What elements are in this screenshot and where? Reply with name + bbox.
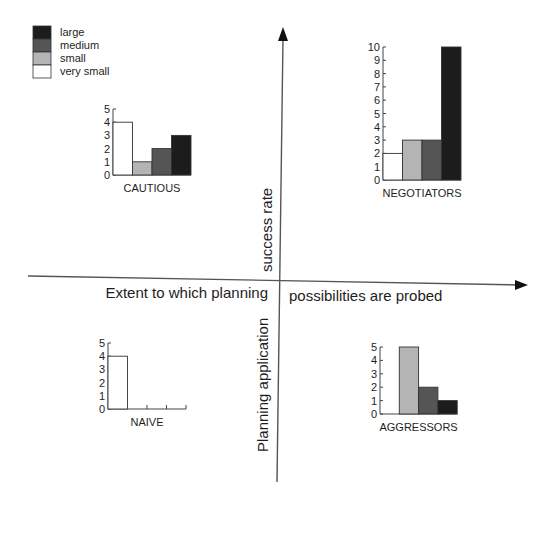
bar-medium bbox=[422, 140, 442, 180]
chart-caption: CAUTIOUS bbox=[124, 182, 181, 194]
y-tick-label: 3 bbox=[99, 363, 105, 375]
bar-very-small bbox=[108, 356, 128, 409]
y-tick-label: 4 bbox=[104, 116, 110, 128]
x-axis-label-left: Extent to which planning bbox=[105, 284, 268, 301]
y-axis-label-top: success rate bbox=[258, 188, 275, 272]
legend-swatch-very-small bbox=[33, 65, 51, 78]
bar-small bbox=[133, 162, 153, 175]
bar-medium bbox=[419, 387, 438, 414]
y-tick-label: 4 bbox=[99, 350, 105, 362]
y-axis-line bbox=[277, 38, 283, 482]
y-tick-label: 1 bbox=[99, 390, 105, 402]
x-axis-line bbox=[28, 276, 520, 285]
chart-aggressors: 012345AGGRESSORS bbox=[371, 341, 458, 433]
bar-small bbox=[403, 140, 423, 180]
y-tick-label: 1 bbox=[374, 161, 380, 173]
y-tick-label: 8 bbox=[374, 68, 380, 80]
y-tick-label: 0 bbox=[104, 169, 110, 181]
y-tick-label: 2 bbox=[99, 377, 105, 389]
y-tick-label: 1 bbox=[371, 395, 377, 407]
bar-medium bbox=[152, 149, 172, 175]
y-tick-label: 2 bbox=[374, 147, 380, 159]
y-tick-label: 0 bbox=[99, 403, 105, 415]
legend-label-very-small: very small bbox=[60, 65, 110, 77]
chart-naive: 012345NAIVE bbox=[99, 337, 186, 428]
y-tick-label: 5 bbox=[104, 103, 110, 115]
legend-label-small: small bbox=[60, 52, 86, 64]
y-tick-label: 0 bbox=[374, 174, 380, 186]
bar-large bbox=[438, 401, 457, 414]
y-tick-label: 0 bbox=[371, 408, 377, 420]
y-tick-label: 6 bbox=[374, 94, 380, 106]
chart-negotiators: 012345678910NEGOTIATORS bbox=[368, 41, 462, 199]
y-tick-label: 5 bbox=[371, 341, 377, 353]
y-tick-label: 4 bbox=[374, 121, 380, 133]
chart-caption: NEGOTIATORS bbox=[382, 187, 461, 199]
legend-label-medium: medium bbox=[60, 39, 99, 51]
y-tick-label: 5 bbox=[374, 108, 380, 120]
y-tick-label: 4 bbox=[371, 354, 377, 366]
legend: large medium small very small bbox=[33, 26, 110, 78]
legend-label-large: large bbox=[60, 26, 84, 38]
bar-very-small bbox=[383, 153, 403, 180]
bar-small bbox=[399, 347, 418, 414]
legend-swatch-small bbox=[33, 52, 51, 65]
y-tick-label: 5 bbox=[99, 337, 105, 349]
legend-swatch-large bbox=[33, 26, 51, 39]
chart-caption: AGGRESSORS bbox=[379, 421, 457, 433]
x-axis-arrow-icon bbox=[515, 280, 528, 290]
bar-very-small bbox=[113, 122, 133, 175]
chart-caption: NAIVE bbox=[130, 416, 163, 428]
y-axis-arrow-icon bbox=[278, 27, 288, 41]
y-tick-label: 7 bbox=[374, 81, 380, 93]
y-tick-label: 3 bbox=[104, 129, 110, 141]
bar-large bbox=[442, 47, 462, 180]
y-tick-label: 10 bbox=[368, 41, 380, 53]
y-tick-label: 2 bbox=[104, 143, 110, 155]
quadrant-diagram: Extent to which planning possibilities a… bbox=[0, 0, 558, 543]
x-axis-label-right: possibilities are probed bbox=[289, 287, 442, 304]
y-tick-label: 1 bbox=[104, 156, 110, 168]
y-tick-label: 2 bbox=[371, 381, 377, 393]
y-tick-label: 9 bbox=[374, 54, 380, 66]
bar-large bbox=[172, 135, 192, 175]
y-axis-label-bottom: Planning application bbox=[254, 318, 271, 452]
chart-cautious: 012345CAUTIOUS bbox=[104, 103, 191, 194]
legend-swatch-medium bbox=[33, 39, 51, 52]
y-tick-label: 3 bbox=[374, 134, 380, 146]
y-tick-label: 3 bbox=[371, 368, 377, 380]
